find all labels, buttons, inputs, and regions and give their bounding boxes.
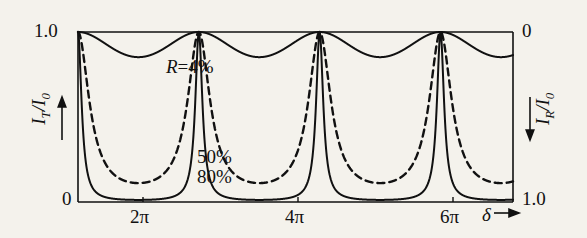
plot-area	[0, 0, 587, 238]
right-arrow-icon	[494, 209, 519, 217]
airy-function-chart: IT/I0 IR/I0 1.0 0 0 1.0 2π 4π 6π δ RR=4%…	[0, 0, 587, 238]
curve-r4	[78, 32, 513, 57]
curve-group	[78, 32, 513, 200]
up-arrow-icon	[58, 97, 66, 140]
down-arrow-icon	[526, 97, 534, 140]
